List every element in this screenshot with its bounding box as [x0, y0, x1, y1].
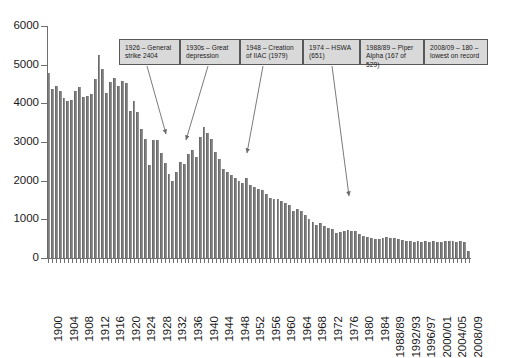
annotation-great-depression: 1930s – Greatdepression: [180, 39, 240, 65]
x-tick-label: 1932: [177, 316, 188, 342]
annotation-lowest-on-record: 2008/09 – 180 –lowest on record: [424, 39, 488, 65]
x-tick-label: 1972: [333, 316, 344, 342]
annotation-piper-alpha: 1988/89 – PiperAlpha (167 of 529): [360, 39, 424, 65]
annotation-line-2: Alpha (167 of 529): [366, 52, 419, 69]
x-tick-label: 2004/05: [457, 316, 468, 358]
x-tick-label: 1908: [84, 316, 95, 342]
annotation-general-strike: 1926 – Generalstrike 2404: [119, 39, 180, 65]
x-tick-label: 1900: [53, 316, 64, 342]
x-tick-label: 1992/93: [411, 316, 422, 358]
x-tick-label: 1912: [100, 316, 111, 342]
annotation-line-1: 1930s – Great: [186, 44, 235, 52]
x-tick-label: 1948: [240, 316, 251, 342]
x-tick-label: 1968: [317, 316, 328, 342]
annotation-line-2: lowest on record: [430, 52, 483, 60]
x-tick-label: 1928: [162, 316, 173, 342]
x-tick-label: 2008/09: [473, 316, 484, 358]
annotation-line-1: 1948 – Creation: [246, 44, 298, 52]
annotation-line-1: 1974 – HSWA: [309, 44, 355, 52]
x-tick-label: 1980: [364, 316, 375, 342]
x-tick-label: 1936: [193, 316, 204, 342]
x-tick-label: 1996/97: [426, 316, 437, 358]
annotation-line-1: 1988/89 – Piper: [366, 44, 419, 52]
annotation-line-2: strike 2404: [125, 52, 175, 60]
x-tick-label: 1952: [255, 316, 266, 342]
x-tick-label: 1988/89: [395, 316, 406, 358]
x-tick-label: 1956: [271, 316, 282, 342]
x-tick-label: 1960: [286, 316, 297, 342]
annotation-line-2: of IIAC (1979): [246, 52, 298, 60]
x-tick-label: 1924: [146, 316, 157, 342]
annotation-line-2: (651): [309, 52, 355, 60]
x-tick-label: 1904: [69, 316, 80, 342]
x-tick-label: 1944: [224, 316, 235, 342]
x-tick-label: 1976: [349, 316, 360, 342]
annotation-iiac-creation: 1948 – Creationof IIAC (1979): [240, 39, 303, 65]
x-tick-label: 1940: [209, 316, 220, 342]
annotation-line-1: 1926 – General: [125, 44, 175, 52]
x-tick-label: 2000/01: [442, 316, 453, 358]
x-tick-label: 1964: [302, 316, 313, 342]
x-tick-label: 1916: [115, 316, 126, 342]
annotation-line-2: depression: [186, 52, 235, 60]
annotation-hswa: 1974 – HSWA(651): [303, 39, 360, 65]
x-tick-label: 1920: [131, 316, 142, 342]
x-tick-label: 1984: [380, 316, 391, 342]
annotation-line-1: 2008/09 – 180 –: [430, 44, 483, 52]
